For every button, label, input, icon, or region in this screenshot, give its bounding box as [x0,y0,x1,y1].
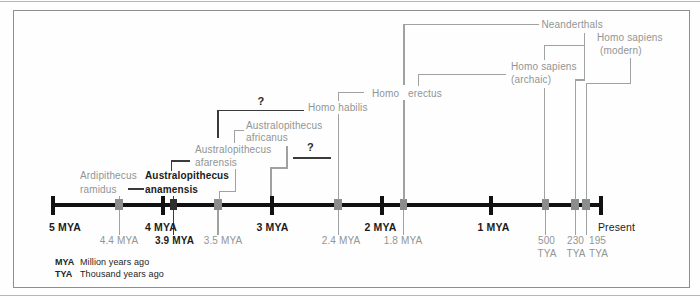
axis-label-2mya: 2 MYA [365,222,397,232]
connector-erectus-marker [403,100,404,200]
tick-2mya [380,196,384,215]
link-ramidus-anamensis-dash [128,188,144,190]
connector-modern-marker [586,83,587,200]
uncertainty-mark-afarensis-habilis: ? [258,96,265,107]
species-ardipithecus-ramidus-line2: ramidus [80,185,117,195]
connector-africanus-jog [270,167,287,168]
connector-africanus-v2 [270,167,271,196]
drop-2.4mya [338,210,339,234]
drop-230tya [575,210,576,234]
bracket-anamensis-afarensis-h [171,160,191,162]
species-homo-sapiens-modern-line2: (modern) [600,46,642,56]
bracket-habilis-erectus-v [338,92,339,101]
species-homo-habilis: Homo habilis [308,103,368,113]
connector-africanus-v1 [286,146,287,169]
connector-ramidus-marker [119,196,120,200]
axis-label-present: Present [598,222,635,232]
uncertain-afarensis-habilis-v [217,110,219,138]
connector-neanderthals-v1 [584,33,585,80]
species-australopithecus-afarensis-line2: afarensis [195,158,237,168]
tick-4mya [161,196,165,215]
date-label-230-unit: TYA [566,249,585,259]
bracket-archaic-neanderthals [544,45,585,46]
bracket-anamensis-afarensis-v [171,160,173,171]
species-homo-erectus-word1: Homo [372,89,399,99]
evolution-timeline-figure: Ardipithecus ramidus Australopithecus an… [0,0,700,300]
connector-erectus-upper [403,24,404,85]
species-australopithecus-afarensis-line1: Australopithecus [195,145,271,155]
legend-mya-definition: Million years ago [80,258,149,267]
species-homo-sapiens-archaic-line2: (archaic) [511,75,551,85]
species-ardipithecus-ramidus-line1: Ardipithecus [80,171,137,181]
bracket-habilis-erectus-h [338,92,365,93]
connector-neanderthals-marker [575,79,576,199]
axis-label-5mya: 5 MYA [49,222,81,232]
species-homo-sapiens-archaic-line1: Homo sapiens [511,62,577,72]
marker-2.4mya [334,199,342,211]
species-australopithecus-africanus-line2: africanus [246,133,288,143]
marker-195tya [582,199,590,211]
uncertain-africanus-habilis-h [293,157,332,159]
tick-1mya [489,196,493,215]
connector-modern-v1 [630,58,631,83]
legend-tya-abbr: TYA [55,270,72,279]
tick-3mya [270,196,274,215]
species-australopithecus-anamensis-line1: Australopithecus [145,171,229,181]
legend-tya-definition: Thousand years ago [80,270,164,279]
tick-present [599,196,603,215]
species-homo-sapiens-modern-line1: Homo sapiens [597,33,663,43]
marker-3.5mya [214,199,222,211]
bracket-afarensis-africanus-h [234,130,244,131]
connector-afarensis-jog [219,191,236,192]
date-label-500-value: 500 [538,236,555,246]
connector-afarensis-v1 [235,169,236,191]
bracket-erectus-archaic-h [418,74,506,75]
connector-habilis-marker [338,114,339,200]
axis-label-1mya: 1 MYA [478,222,510,232]
marker-4.4mya [115,199,123,211]
branch-erectus-neanderthals [403,24,538,25]
species-australopithecus-anamensis-line2: anamensis [145,185,198,195]
marker-230tya [571,199,579,211]
connector-modern-jog [586,83,631,84]
axis-label-4mya: 4 MYA [145,222,177,232]
drop-195tya [586,210,587,234]
connector-archaic-marker [544,88,545,200]
timeline-axis [51,203,603,206]
bracket-erectus-archaic-v [418,74,419,86]
date-label-230-value: 230 [567,236,584,246]
drop-3.5mya [217,210,218,234]
connector-afarensis-v2 [219,191,220,200]
drop-1.8mya [403,210,404,234]
bracket-afarensis-africanus-v [234,130,235,144]
marker-3.9mya [170,199,178,211]
connector-anamensis-marker [173,196,174,200]
species-australopithecus-africanus-line1: Australopithecus [246,121,322,131]
figure-border [13,10,690,288]
uncertain-afarensis-habilis-h [218,110,304,112]
date-label-4.4mya: 4.4 MYA [100,236,139,246]
drop-500tya [545,210,546,234]
connector-archaic-upper [544,45,545,60]
marker-500tya [542,199,550,211]
date-label-2.4mya: 2.4 MYA [322,236,361,246]
species-homo-erectus-word2: erectus [408,89,442,99]
drop-4.4mya [119,210,120,234]
date-label-195-unit: TYA [589,249,608,259]
date-label-500-unit: TYA [537,249,556,259]
page-rule-bottom [0,295,700,297]
legend-mya-abbr: MYA [55,258,74,267]
page-rule-top [0,1,700,2]
date-label-3.5mya: 3.5 MYA [204,236,243,246]
date-label-3.9mya: 3.9 MYA [155,236,194,246]
date-label-1.8mya: 1.8 MYA [384,236,423,246]
species-neanderthals: Neanderthals [542,20,603,30]
connector-neanderthals-jog [575,79,585,80]
axis-label-3mya: 3 MYA [257,222,289,232]
date-label-195-value: 195 [589,236,606,246]
tick-5mya [51,196,55,215]
uncertainty-mark-africanus-habilis: ? [307,142,314,153]
marker-1.8mya [400,199,408,211]
